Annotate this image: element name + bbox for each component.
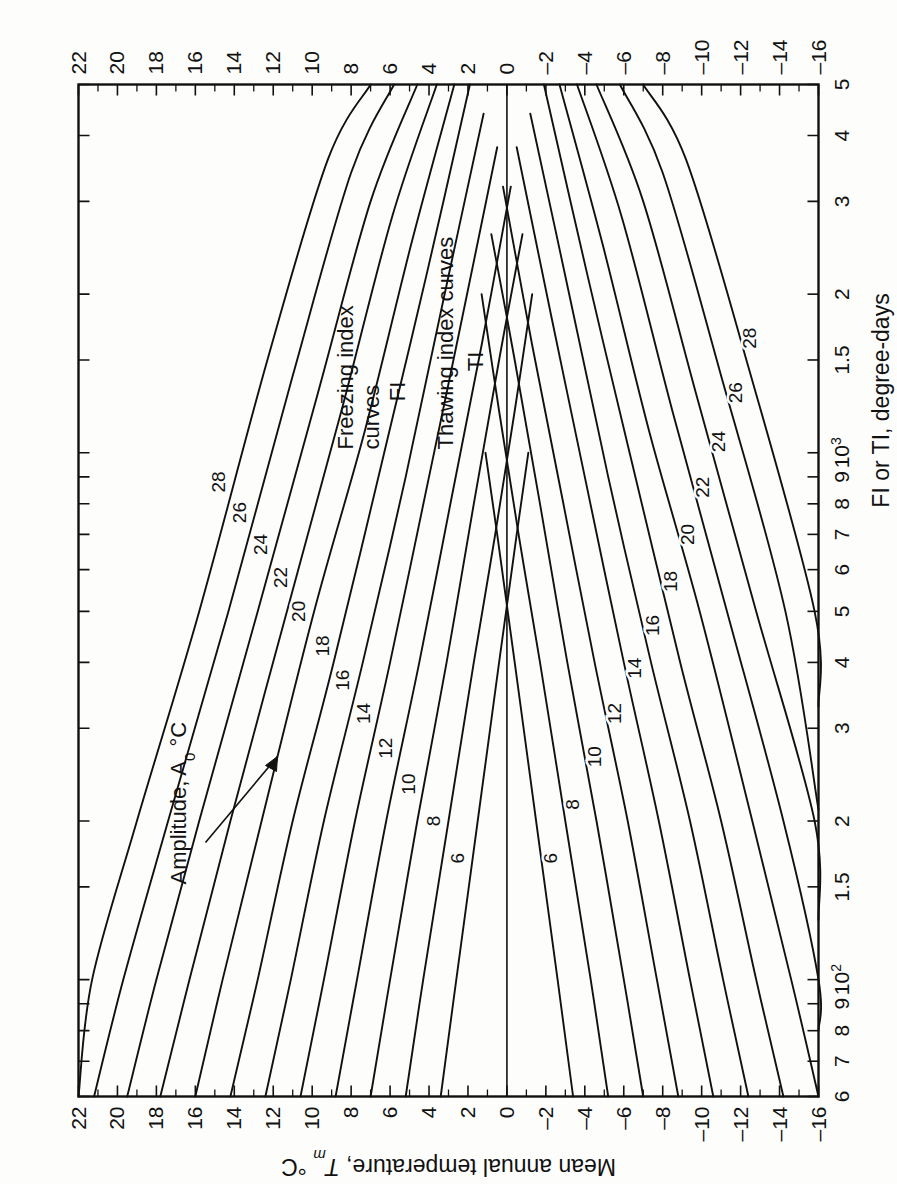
y-tick-label: 10: [300, 1106, 323, 1129]
y-axis-subscript: m: [313, 1147, 326, 1164]
x-tick-label: 9: [829, 471, 852, 483]
y-tick-label-right: 8: [339, 62, 362, 74]
x-tick-label: 8: [829, 1024, 852, 1036]
x-tick-label: 7: [829, 1055, 852, 1067]
x-tick-label: 2: [829, 815, 852, 827]
y-tick-label-right: 14: [222, 50, 245, 74]
x-tick-label: 5: [829, 605, 852, 617]
curve-value-label: 6: [446, 852, 467, 863]
y-tick-label: –16: [806, 1106, 829, 1141]
curve-value-label: 12: [604, 702, 625, 723]
thawing-index-caption-line1: Thawing index curves: [432, 236, 457, 449]
x-tick-label: 4: [829, 656, 852, 668]
x-tick-label: 103: [827, 436, 852, 467]
y-tick-label: –6: [611, 1106, 634, 1129]
y-tick-label-right: 18: [144, 51, 167, 74]
x-tick-label: 3: [829, 195, 852, 207]
freezing-index-curve: [78, 84, 370, 1096]
y-tick-label: –4: [572, 1106, 595, 1130]
curve-value-label: 18: [311, 635, 332, 656]
curve-value-label: 10: [398, 773, 419, 794]
curve-value-label: 14: [624, 657, 645, 679]
x-tick-label: 3: [829, 722, 852, 734]
y-tick-label-right: –6: [611, 51, 634, 74]
x-tick-label: 6: [829, 563, 852, 575]
x-tick-label: 1.5: [829, 345, 852, 374]
x-tick-label: 4: [829, 129, 852, 141]
freezing-index-curve: [94, 84, 394, 1096]
y-tick-label: 4: [417, 1106, 440, 1118]
x-tick-label: 5: [829, 78, 852, 90]
y-tick-label-right: –16: [806, 39, 829, 74]
amplitude-unit: °C: [165, 721, 190, 752]
curve-value-label: 8: [422, 815, 443, 826]
x-tick-label: 102: [827, 963, 852, 994]
x-decade-exponent: 2: [827, 963, 843, 971]
x-tick-label: 2: [829, 288, 852, 300]
chart-canvas: 67891021.5234567891031.52345FI or TI, de…: [0, 0, 897, 1184]
y-tick-label: 14: [222, 1106, 245, 1130]
curve-value-label: 24: [250, 533, 271, 555]
y-tick-label: –10: [689, 1106, 712, 1141]
curve-value-label: 16: [332, 669, 353, 690]
freezing-index-caption-line1: Freezing index: [332, 305, 357, 449]
curve-value-label: 20: [677, 523, 698, 544]
y-tick-label: 12: [261, 1106, 284, 1129]
y-tick-label-right: 2: [455, 62, 478, 74]
x-tick-label: 8: [829, 497, 852, 509]
y-tick-label-right: –12: [728, 39, 751, 74]
y-tick-label-right: –2: [533, 51, 556, 74]
x-decade-exponent: 3: [827, 436, 843, 444]
y-tick-label: 18: [144, 1106, 167, 1129]
freezing-index-caption-abbr: FI: [384, 381, 409, 401]
y-tick-label-right: 22: [66, 51, 89, 74]
figure-svg: 67891021.5234567891031.52345FI or TI, de…: [0, 0, 897, 1184]
y-tick-label-right: 4: [417, 62, 440, 74]
y-tick-label-right: –4: [572, 50, 595, 74]
y-tick-label: –12: [728, 1106, 751, 1141]
x-tick-label: 6: [829, 1090, 852, 1102]
y-tick-label-right: 20: [105, 51, 128, 74]
thawing-index-curve: [577, 84, 821, 1030]
y-tick-label-right: –14: [767, 39, 790, 74]
curve-value-label: 22: [692, 476, 713, 497]
y-tick-label: 16: [183, 1106, 206, 1129]
thawing-index-curve: [485, 452, 573, 1096]
y-tick-label-right: 6: [378, 62, 401, 74]
y-tick-label-right: 12: [261, 51, 284, 74]
y-tick-label-right: –8: [650, 51, 673, 74]
thawing-index-curve: [530, 113, 748, 1096]
y-tick-label: 0: [494, 1106, 517, 1118]
curve-value-label: 22: [270, 566, 291, 587]
curve-value-label: 12: [375, 737, 396, 758]
freezing-index-curve: [127, 84, 417, 1096]
y-tick-label-right: 0: [494, 62, 517, 74]
y-tick-label: 22: [66, 1106, 89, 1129]
x-tick-label: 1.5: [829, 872, 852, 901]
curve-value-label: 8: [561, 799, 582, 810]
curve-value-label: 20: [288, 600, 309, 621]
curve-value-label: 28: [738, 327, 759, 348]
curve-value-label: 10: [583, 746, 604, 767]
y-axis-title: Mean annual temperature, Tm °C: [281, 1147, 616, 1180]
thawing-index-curve: [503, 186, 678, 1096]
freezing-index-curve: [440, 452, 528, 1096]
y-tick-label: 2: [455, 1106, 478, 1118]
y-tick-label: –8: [650, 1106, 673, 1129]
thawing-index-curve: [481, 294, 608, 1096]
curve-value-label: 16: [641, 614, 662, 635]
y-tick-label: 20: [105, 1106, 128, 1129]
amplitude-annotation: Amplitude, A0 °C: [165, 721, 197, 884]
thawing-index-caption-abbr: TI: [462, 351, 487, 371]
y-tick-label-right: 10: [300, 51, 323, 74]
y-tick-label-right: –10: [689, 39, 712, 74]
amplitude-subscript: 0: [180, 752, 197, 760]
y-tick-label: –2: [533, 1106, 556, 1129]
curve-value-label: 18: [659, 570, 680, 591]
curve-value-label: 26: [724, 382, 745, 403]
freezing-index-caption-line2: curves: [358, 384, 383, 449]
curve-value-label: 26: [229, 501, 250, 522]
y-tick-label: –14: [767, 1106, 790, 1141]
curve-value-label: 28: [208, 471, 229, 492]
y-axis-unit: °C: [281, 1153, 313, 1179]
